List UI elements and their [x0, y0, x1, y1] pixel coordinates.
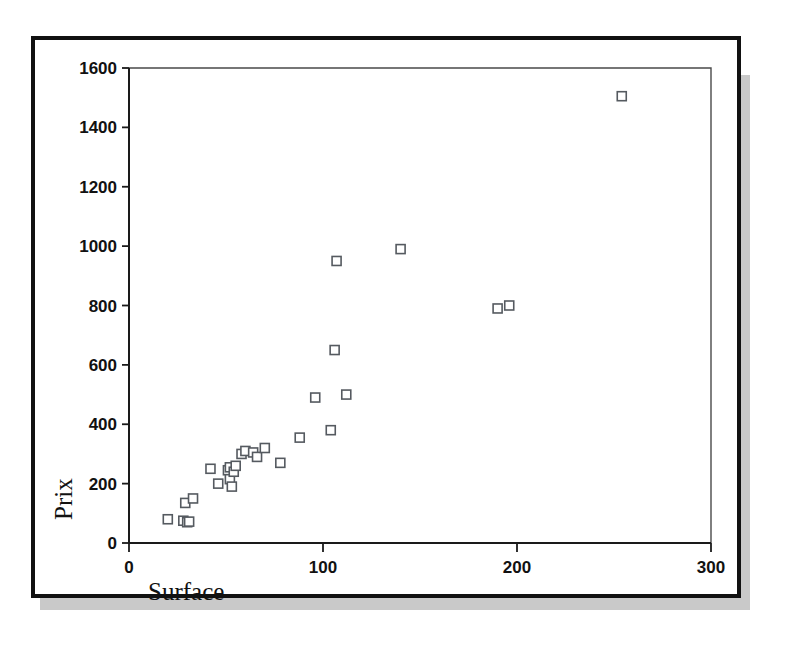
data-point	[617, 92, 626, 101]
data-point	[396, 245, 405, 254]
data-point	[493, 304, 502, 313]
data-point	[326, 426, 335, 435]
data-point	[253, 452, 262, 461]
y-axis-ticks: 02004006008001000120014001600	[79, 59, 129, 553]
data-point	[311, 393, 320, 402]
data-point	[214, 479, 223, 488]
axis-lines	[129, 68, 711, 543]
data-point	[276, 458, 285, 467]
data-point-group	[163, 92, 626, 527]
y-tick-label: 400	[89, 415, 117, 434]
data-point	[505, 301, 514, 310]
data-point	[189, 494, 198, 503]
plot-frame-lines	[129, 68, 711, 543]
data-point	[231, 461, 240, 470]
y-axis-title: Prix	[50, 478, 77, 520]
y-tick-label: 800	[89, 297, 117, 316]
data-point	[295, 433, 304, 442]
data-point	[227, 482, 236, 491]
data-point	[163, 515, 172, 524]
data-point	[206, 464, 215, 473]
y-tick-label: 600	[89, 356, 117, 375]
y-tick-label: 1000	[79, 237, 117, 256]
x-tick-label: 100	[309, 558, 337, 577]
x-tick-label: 200	[503, 558, 531, 577]
y-tick-label: 1400	[79, 118, 117, 137]
data-point	[332, 256, 341, 265]
data-point	[342, 390, 351, 399]
data-point	[185, 517, 194, 526]
data-point	[260, 444, 269, 453]
y-tick-label: 1600	[79, 59, 117, 78]
y-tick-label: 200	[89, 475, 117, 494]
x-axis-ticks: 0100200300	[124, 543, 725, 577]
y-tick-label: 0	[108, 534, 117, 553]
x-tick-label: 0	[124, 558, 133, 577]
x-axis-title: Surface	[148, 578, 224, 605]
scatter-plot: 02004006008001000120014001600 0100200300…	[0, 0, 785, 661]
plot-canvas: 02004006008001000120014001600 0100200300…	[0, 0, 785, 661]
x-tick-label: 300	[697, 558, 725, 577]
y-tick-label: 1200	[79, 178, 117, 197]
data-point	[330, 346, 339, 355]
